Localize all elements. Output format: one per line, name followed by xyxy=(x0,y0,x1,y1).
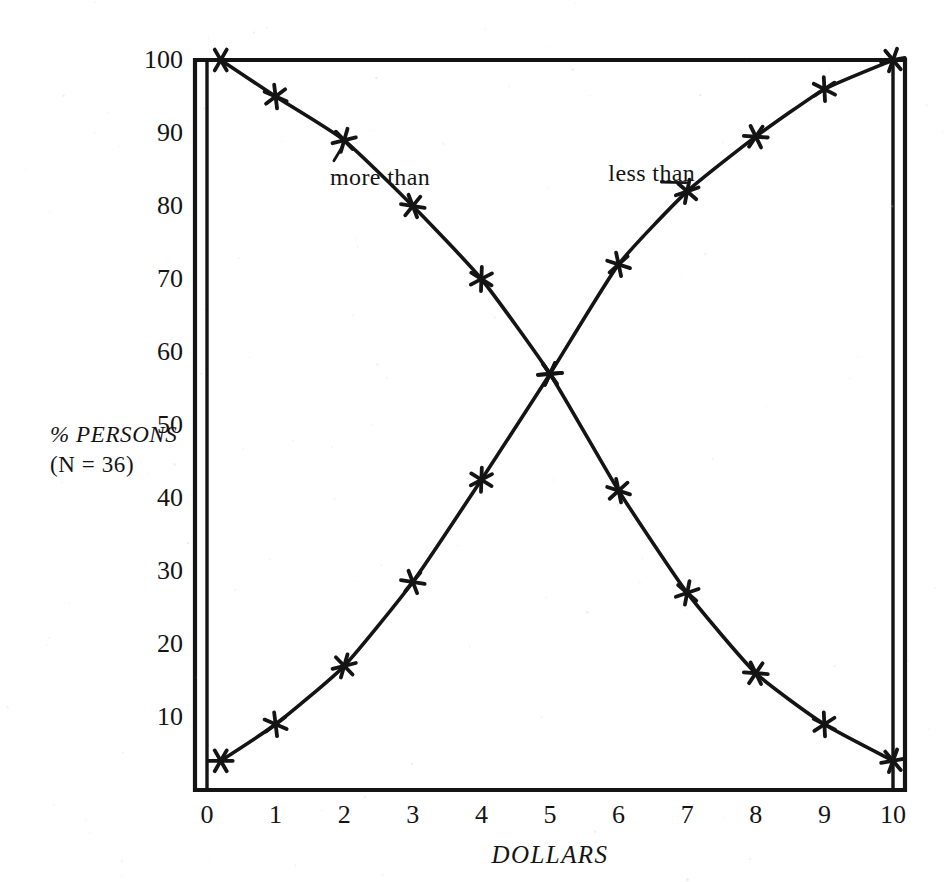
y-axis-tick-label: 40 xyxy=(157,485,183,511)
x-axis-tick-label: 6 xyxy=(612,802,625,828)
x-axis-tick-label: 4 xyxy=(475,802,488,828)
y-axis-tick-label: 10 xyxy=(157,704,183,730)
data-point-marker xyxy=(607,253,630,276)
data-point-marker xyxy=(676,581,699,605)
curve-label-less-than: less than xyxy=(608,161,695,185)
data-point-markers-less-than xyxy=(209,49,905,771)
x-axis-tick-label: 2 xyxy=(338,802,351,828)
x-axis-tick-label: 9 xyxy=(818,802,831,828)
data-point-marker xyxy=(538,363,562,385)
x-axis-tick-label: 10 xyxy=(880,802,906,828)
data-point-marker xyxy=(333,129,356,152)
data-point-marker xyxy=(265,85,287,109)
y-axis-tick-label: 80 xyxy=(157,193,183,219)
x-axis-tick-label: 5 xyxy=(544,802,557,828)
y-axis-tick-label: 20 xyxy=(157,631,183,657)
inner-axis-rules xyxy=(207,62,893,790)
y-axis-tick-label: 30 xyxy=(157,558,183,584)
data-point-marker xyxy=(401,571,425,593)
x-axis-tick-label: 8 xyxy=(749,802,762,828)
data-point-marker xyxy=(607,479,630,502)
y-axis-subtitle-n: (N = 36) xyxy=(50,453,134,476)
x-axis-tick-label: 7 xyxy=(681,802,694,828)
y-axis-tick-label: 70 xyxy=(157,266,183,292)
x-axis-tick-label: 0 xyxy=(201,802,214,828)
y-axis-tick-label: 90 xyxy=(157,120,183,146)
y-axis-tick-label: 100 xyxy=(144,47,183,73)
x-axis-tick-label: 1 xyxy=(269,802,282,828)
chart-figure: 102030405060708090100 012345678910 % PER… xyxy=(0,0,946,882)
data-point-marker xyxy=(814,77,835,101)
series-more-than xyxy=(209,50,905,772)
y-axis-tick-label: 60 xyxy=(157,339,183,365)
x-axis-title: DOLLARS xyxy=(492,842,609,867)
y-axis-title: % PERSONS xyxy=(50,423,177,446)
data-point-markers-more-than xyxy=(209,50,905,772)
data-point-marker xyxy=(814,712,835,736)
curve-label-more-than: more than xyxy=(330,165,430,189)
series-less-than xyxy=(209,49,905,771)
x-axis-tick-label: 3 xyxy=(406,802,419,828)
plot-frame xyxy=(195,60,905,790)
